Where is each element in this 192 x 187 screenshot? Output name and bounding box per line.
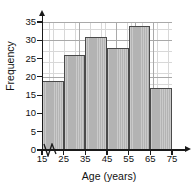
x-tick-label: 25 <box>54 154 74 164</box>
x-tick-label: 45 <box>97 154 117 164</box>
bar <box>150 88 172 150</box>
bar <box>129 26 151 150</box>
bar <box>107 48 129 150</box>
bar <box>85 37 107 150</box>
x-tick-label: 65 <box>140 154 160 164</box>
y-tick-label: 15 <box>25 90 36 100</box>
y-tick <box>37 40 43 41</box>
y-tick <box>37 21 43 22</box>
y-tick-label: 25 <box>25 54 36 64</box>
bar <box>42 81 64 150</box>
y-axis-line <box>42 16 43 150</box>
y-tick-label: 35 <box>25 17 36 27</box>
y-tick <box>37 131 43 132</box>
y-axis-arrow-icon <box>39 10 45 16</box>
x-tick-label: 35 <box>75 154 95 164</box>
x-tick-label: 75 <box>162 154 182 164</box>
y-tick <box>37 113 43 114</box>
bar <box>64 55 86 150</box>
histogram-chart: 05101520253035 15253545556575 Frequency … <box>0 0 192 187</box>
y-tick-label: 20 <box>25 72 36 82</box>
y-tick <box>37 95 43 96</box>
y-axis-title: Frequency <box>4 26 16 106</box>
y-tick <box>37 76 43 77</box>
x-axis-title: Age (years) <box>42 170 176 182</box>
plot-area <box>42 22 172 150</box>
bar-series <box>42 22 172 150</box>
x-axis-arrow-icon <box>185 146 191 152</box>
x-tick-label: 55 <box>119 154 139 164</box>
y-tick-label: 30 <box>25 35 36 45</box>
y-tick-label: 10 <box>25 108 36 118</box>
y-tick-label: 5 <box>31 127 36 137</box>
x-tick-label: 15 <box>32 154 52 164</box>
y-tick <box>37 58 43 59</box>
